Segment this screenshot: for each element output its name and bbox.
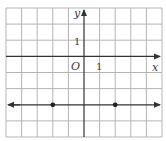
- y-tick-label-1: 1: [74, 36, 80, 47]
- x-axis-label: x: [152, 61, 159, 74]
- coordinate-graph: y x O 1 1: [0, 0, 166, 141]
- point-neg2-neg3: [50, 102, 55, 107]
- point-2-neg3: [113, 102, 118, 107]
- origin-label: O: [71, 60, 80, 73]
- y-axis-label: y: [73, 7, 81, 20]
- x-tick-label-1: 1: [96, 61, 102, 72]
